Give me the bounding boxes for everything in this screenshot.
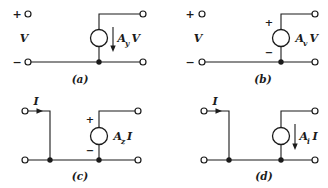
- dependent-source-circle: [91, 30, 108, 47]
- dependent-source-circle: [273, 128, 290, 145]
- current-arrow-head-icon: [110, 46, 115, 53]
- input-minus-sign: −: [185, 56, 194, 69]
- panel-caption: (a): [72, 73, 89, 85]
- gain-subscript: z: [120, 137, 126, 146]
- input-terminal-bottom: [199, 59, 205, 65]
- input-terminal-bottom: [22, 157, 28, 163]
- panel-caption: (b): [254, 73, 271, 85]
- gain-variable: V: [310, 32, 320, 45]
- input-minus-sign: −: [12, 56, 21, 69]
- source-minus-sign: −: [86, 145, 94, 156]
- gain-variable: I: [312, 130, 319, 143]
- circuit-diagram-canvas: + V − A y V (a) + V − + − A v: [0, 0, 328, 188]
- input-wire: [28, 111, 50, 160]
- input-terminal-top: [25, 11, 31, 17]
- connection-node-input: [226, 157, 231, 162]
- top-wire: [99, 111, 135, 128]
- current-arrow-head-icon: [292, 144, 297, 151]
- gain-subscript: i: [307, 137, 310, 146]
- input-current-label: I: [32, 95, 39, 108]
- input-plus-sign: +: [185, 8, 194, 21]
- output-terminal-bottom: [312, 157, 318, 163]
- dependent-source-circle: [91, 128, 108, 145]
- input-current-arrow-icon: [37, 108, 44, 113]
- panel-caption: (d): [255, 170, 272, 182]
- source-minus-sign: −: [265, 47, 273, 58]
- output-terminal-bottom: [312, 59, 318, 65]
- panel-a: + V − A y V (a): [12, 8, 146, 85]
- gain-subscript: y: [124, 39, 130, 48]
- output-terminal-top: [135, 108, 141, 114]
- output-terminal-top: [140, 11, 146, 17]
- input-plus-sign: +: [12, 8, 21, 21]
- input-terminal-bottom: [25, 59, 31, 65]
- dependent-source-circle: [273, 30, 290, 47]
- connection-node-input: [47, 157, 52, 162]
- input-terminal-top: [199, 11, 205, 17]
- output-terminal-top: [312, 108, 318, 114]
- input-current-label: I: [211, 95, 218, 108]
- top-wire: [281, 111, 312, 128]
- gain-variable: V: [132, 32, 142, 45]
- output-terminal-bottom: [140, 59, 146, 65]
- input-voltage-label: V: [194, 32, 204, 45]
- source-plus-sign: +: [265, 17, 273, 28]
- gain-variable: I: [126, 130, 133, 143]
- output-terminal-bottom: [135, 157, 141, 163]
- top-wire: [281, 14, 312, 30]
- panel-c: I + − A z I (c): [22, 95, 141, 182]
- input-voltage-label: V: [20, 32, 30, 45]
- gain-subscript: v: [303, 39, 308, 48]
- input-terminal-bottom: [201, 157, 207, 163]
- input-terminal-top: [22, 108, 28, 114]
- panel-b: + V − + − A v V (b): [185, 8, 319, 85]
- panel-d: I A i I (d): [201, 95, 319, 182]
- input-terminal-top: [201, 108, 207, 114]
- input-current-arrow-icon: [216, 108, 223, 113]
- panel-caption: (c): [72, 170, 88, 182]
- output-terminal-top: [312, 11, 318, 17]
- source-plus-sign: +: [86, 114, 94, 125]
- input-wire: [207, 111, 229, 160]
- controlled-sources-figure: + V − A y V (a) + V − + − A v: [0, 0, 328, 188]
- top-wire: [99, 14, 140, 30]
